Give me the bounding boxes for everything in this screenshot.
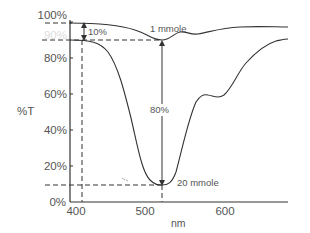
delta-80-label: 80% [150, 104, 169, 116]
x-tick-400: 400 [61, 206, 91, 218]
series-20-mmole-line [70, 39, 288, 185]
x-tick-500: 500 [130, 206, 160, 218]
y-tick-0: 0% [26, 197, 66, 209]
y-tick-40: 40% [27, 125, 67, 137]
delta-10-label: 10% [88, 27, 107, 37]
y-tick-60: 60% [27, 89, 67, 101]
series-2-label: 20 mmole [177, 178, 219, 188]
x-axis-label: nm [171, 218, 186, 229]
y-tick-90: 90% [27, 30, 67, 42]
stray-mark [122, 178, 128, 181]
y-tick-100: 100% [27, 10, 67, 22]
reference-lines [42, 23, 162, 202]
series-1-label: 1 mmole [150, 24, 186, 34]
x-tick-600: 600 [210, 206, 240, 218]
y-tick-20: 20% [27, 161, 67, 173]
y-tick-80: 80% [27, 53, 67, 65]
y-axis-label: %T [17, 106, 34, 118]
